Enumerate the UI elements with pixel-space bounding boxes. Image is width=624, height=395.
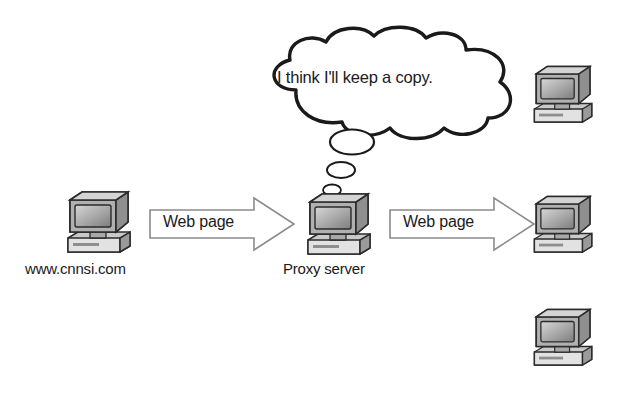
- computer-icon: [527, 305, 601, 375]
- arrow-label: Web page: [163, 213, 234, 231]
- computer-icon: [300, 190, 380, 264]
- computer-icon: [527, 192, 601, 262]
- node-client-middle[interactable]: [527, 192, 601, 262]
- computer-icon: [527, 62, 601, 132]
- tail-dot-large: [330, 130, 374, 155]
- diagram-canvas: I think I'll keep a copy. Web page Web p…: [0, 0, 624, 395]
- arrow-origin-to-proxy: Web page: [148, 196, 298, 252]
- thought-bubble: I think I'll keep a copy.: [250, 28, 530, 143]
- computer-icon: [60, 188, 140, 262]
- arrow-label: Web page: [403, 213, 474, 231]
- arrow-proxy-to-client: Web page: [388, 196, 538, 252]
- thought-bubble-text: I think I'll keep a copy.: [277, 68, 433, 87]
- node-client-bottom[interactable]: [527, 305, 601, 375]
- node-origin-server[interactable]: www.cnnsi.com: [60, 188, 140, 262]
- node-label-origin-server: www.cnnsi.com: [25, 260, 126, 277]
- node-label-proxy-server: Proxy server: [283, 260, 365, 277]
- tail-dot-medium: [327, 162, 355, 178]
- node-client-top[interactable]: [527, 62, 601, 132]
- node-proxy-server[interactable]: Proxy server: [300, 190, 380, 264]
